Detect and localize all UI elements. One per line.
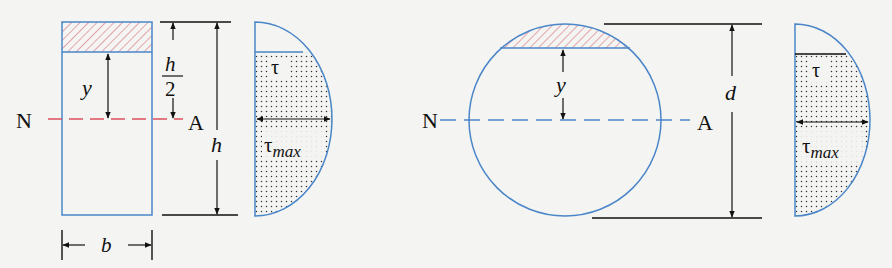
rectangle-section: N A y h 2 h b — [16, 22, 238, 260]
neutral-axis-label-a: A — [188, 110, 204, 135]
diameter-label: d — [725, 80, 737, 105]
rectangle-shear-distribution: τ τmax — [255, 22, 335, 216]
hatched-area — [62, 22, 152, 52]
width-label: b — [101, 233, 112, 257]
neutral-axis-label-a: A — [697, 110, 713, 135]
y-label: y — [80, 75, 92, 100]
circle-shear-distribution: τ τmax — [795, 24, 875, 216]
figure-canvas: N A y h 2 h b τ τmax N A y d — [0, 0, 892, 268]
tau-label: τ — [812, 59, 820, 81]
y-label: y — [554, 72, 566, 97]
tau-label: τ — [271, 56, 279, 78]
neutral-axis-label-n: N — [16, 108, 32, 133]
half-height-numerator: h — [165, 52, 176, 76]
neutral-axis-label-n: N — [422, 108, 438, 133]
hatched-segment — [469, 24, 661, 48]
circular-section: N A y d — [422, 24, 762, 218]
height-label: h — [211, 132, 222, 157]
half-height-denominator: 2 — [165, 77, 176, 101]
